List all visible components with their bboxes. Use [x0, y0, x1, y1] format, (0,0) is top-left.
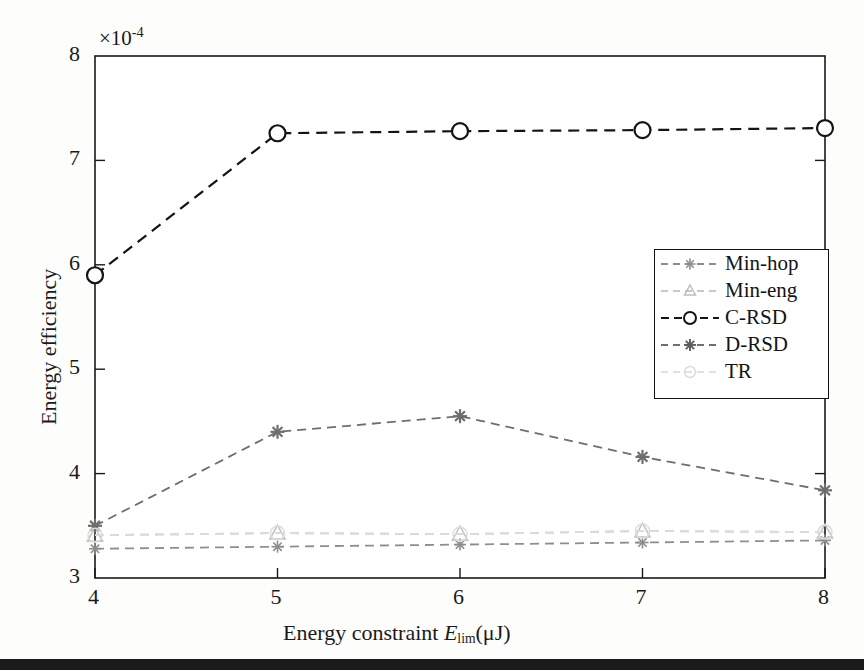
legend: Min-hop Min-eng C-RSD — [654, 249, 829, 399]
y-tick-label: 4 — [69, 459, 80, 485]
legend-item-min-hop: Min-hop — [655, 250, 828, 277]
legend-item-tr: TR — [655, 358, 828, 385]
legend-label-d-rsd: D-RSD — [725, 331, 788, 358]
x-tick-label: 4 — [88, 584, 99, 610]
y-tick-label: 3 — [69, 563, 80, 589]
data-point — [270, 125, 286, 141]
data-point — [818, 483, 832, 497]
legend-swatch-d-rsd — [655, 331, 725, 358]
y-tick-label: 6 — [69, 250, 80, 276]
y-axis-exponent: ×10-4 — [99, 24, 144, 51]
data-point — [87, 267, 103, 283]
legend-swatch-min-eng — [655, 277, 725, 304]
x-tick-label: 5 — [271, 584, 282, 610]
y-tick-label: 5 — [69, 354, 80, 380]
data-point — [819, 534, 831, 546]
page-footer-rule — [0, 659, 864, 670]
legend-label-tr: TR — [725, 358, 752, 385]
data-point — [635, 122, 651, 138]
x-tick-label: 8 — [818, 584, 829, 610]
legend-label-c-rsd: C-RSD — [725, 304, 787, 331]
legend-swatch-min-hop — [655, 250, 725, 277]
data-point — [817, 120, 833, 136]
legend-swatch-c-rsd — [655, 304, 725, 331]
legend-swatch-tr — [655, 358, 725, 385]
legend-label-min-eng: Min-eng — [725, 277, 797, 304]
legend-label-min-hop: Min-hop — [725, 250, 799, 277]
data-point — [271, 425, 285, 439]
legend-item-c-rsd: C-RSD — [655, 304, 828, 331]
y-axis-title: Energy efficiency — [36, 269, 62, 425]
data-point — [453, 409, 467, 423]
legend-item-d-rsd: D-RSD — [655, 331, 828, 358]
y-tick-label: 8 — [69, 41, 80, 67]
legend-item-min-eng: Min-eng — [655, 277, 828, 304]
x-tick-label: 6 — [453, 584, 464, 610]
figure-container: ×10-4 Energy efficiency Energy constrain… — [0, 0, 864, 670]
data-point — [452, 123, 468, 139]
data-point — [636, 450, 650, 464]
data-point — [89, 543, 101, 555]
data-point — [272, 541, 284, 553]
x-tick-label: 7 — [636, 584, 647, 610]
x-axis-title: Energy constraint Elim(μJ) — [283, 620, 511, 647]
y-tick-label: 7 — [69, 145, 80, 171]
